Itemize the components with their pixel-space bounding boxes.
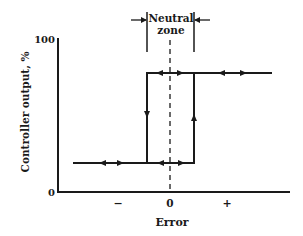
x-tick-negative: − — [113, 197, 122, 210]
arrow-down-icon — [144, 111, 150, 118]
axes — [57, 38, 290, 192]
hysteresis-curve — [73, 72, 272, 164]
arrow-right-icon — [117, 160, 124, 166]
arrow-up-icon — [191, 114, 197, 121]
arrow-left-icon — [157, 160, 164, 166]
arrow-left-icon — [99, 160, 106, 166]
arrow-left-icon — [156, 70, 163, 76]
arrow-right-icon — [178, 160, 185, 166]
x-axis-label: Error — [155, 216, 188, 229]
x-tick-positive: + — [222, 197, 231, 210]
neutral-zone-label-line2: zone — [157, 24, 185, 36]
curve-direction-arrows — [99, 70, 247, 166]
x-tick-zero: 0 — [166, 197, 173, 209]
arrow-right-icon — [177, 70, 184, 76]
y-tick-100: 100 — [34, 34, 55, 45]
y-axis-label: Controller output, % — [19, 52, 31, 173]
neutral-zone-bracket: Neutral zone — [131, 12, 210, 52]
hysteresis-diagram: 100 0 Controller output, % − 0 + Error N… — [0, 0, 303, 236]
y-tick-0: 0 — [48, 187, 55, 198]
arrow-left-icon — [218, 70, 225, 76]
arrow-right-icon — [240, 70, 247, 76]
neutral-zone-label-line1: Neutral — [148, 12, 193, 24]
